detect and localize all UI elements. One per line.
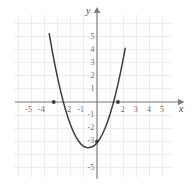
x-axis-label: x — [179, 104, 183, 114]
y-tick-2: 2 — [91, 72, 95, 80]
y-tick-neg2: -2 — [88, 124, 95, 132]
x-tick-4: 4 — [147, 106, 151, 114]
y-axis-label: y — [86, 6, 90, 16]
x-tick-neg5: -5 — [25, 106, 32, 114]
x-tick-neg2: -2 — [64, 106, 71, 114]
y-tick-neg5: -5 — [88, 164, 95, 172]
right-x-intercept-point — [116, 100, 120, 104]
x-tick-2: 2 — [121, 106, 125, 114]
y-tick-4: 4 — [91, 46, 95, 54]
x-tick-3: 3 — [134, 106, 138, 114]
x-tick-neg1: -1 — [77, 106, 84, 114]
axes — [15, 7, 185, 179]
plot-canvas — [0, 0, 195, 188]
graph-figure: y x -5-4-2-12345 54321-1-2-3-5 — [0, 0, 195, 188]
y-tick-neg3: -3 — [88, 137, 95, 145]
y-tick-neg1: -1 — [88, 111, 95, 119]
x-tick-neg4: -4 — [38, 106, 45, 114]
y-tick-5: 5 — [91, 33, 95, 41]
y-tick-3: 3 — [91, 59, 95, 67]
y-intercept-point — [95, 139, 99, 143]
y-axis-arrow — [94, 7, 101, 13]
x-tick-5: 5 — [160, 106, 164, 114]
y-tick-1: 1 — [91, 85, 95, 93]
left-x-intercept-point — [52, 100, 56, 104]
